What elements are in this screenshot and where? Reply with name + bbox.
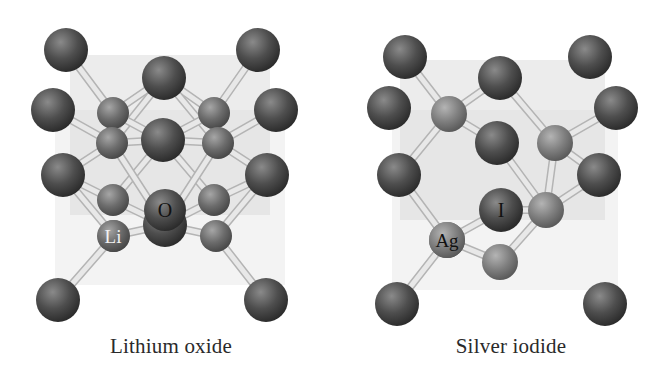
anion-label: I bbox=[498, 199, 505, 221]
cation-label: Li bbox=[105, 226, 122, 247]
anion-atom bbox=[236, 28, 280, 72]
caption-lithium-oxide: Lithium oxide bbox=[51, 334, 291, 359]
anion-atom bbox=[254, 88, 298, 132]
anion-atom bbox=[583, 282, 627, 326]
anion-atom bbox=[478, 56, 522, 100]
silver-iodide-structure: IAg bbox=[367, 35, 638, 326]
caption-silver-iodide: Silver iodide bbox=[391, 334, 631, 359]
crystal-structures-figure: OLi IAg bbox=[0, 0, 662, 371]
cation-atom bbox=[202, 127, 234, 159]
anion-atom bbox=[475, 121, 519, 165]
anion-atom bbox=[31, 88, 75, 132]
anion-atom bbox=[577, 153, 621, 197]
cation-atom bbox=[528, 192, 564, 228]
cation-atom bbox=[198, 97, 230, 129]
anion-label: O bbox=[158, 199, 172, 221]
lithium-oxide-structure: OLi bbox=[31, 28, 298, 322]
cation-atom bbox=[482, 244, 518, 280]
anion-atom bbox=[244, 278, 288, 322]
anion-atom bbox=[142, 56, 186, 100]
cation-atom bbox=[96, 127, 128, 159]
cation-atom bbox=[198, 184, 230, 216]
anion-atom bbox=[568, 35, 612, 79]
cation-atom bbox=[431, 96, 467, 132]
anion-atom bbox=[594, 86, 638, 130]
cation-label: Ag bbox=[435, 230, 459, 251]
anion-atom bbox=[245, 153, 289, 197]
anion-atom bbox=[44, 28, 88, 72]
anion-atom bbox=[383, 35, 427, 79]
anion-atom bbox=[36, 278, 80, 322]
anion-atom bbox=[367, 86, 411, 130]
cation-atom bbox=[200, 220, 232, 252]
cation-atom bbox=[97, 184, 129, 216]
anion-atom bbox=[41, 153, 85, 197]
anion-atom bbox=[141, 118, 185, 162]
anion-atom bbox=[377, 153, 421, 197]
anion-atom bbox=[375, 282, 419, 326]
cation-atom bbox=[537, 125, 573, 161]
cation-atom bbox=[97, 97, 129, 129]
